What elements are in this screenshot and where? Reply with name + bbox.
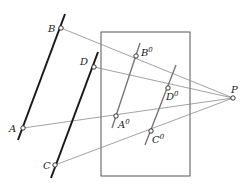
label-d0: D0 bbox=[165, 90, 179, 102]
projection-ray-d bbox=[94, 67, 233, 98]
label-a0: A0 bbox=[117, 118, 130, 130]
label-c: C bbox=[43, 160, 51, 171]
line-CD bbox=[51, 52, 98, 178]
label-b0: B0 bbox=[140, 46, 153, 58]
image-point-b0 bbox=[134, 54, 138, 58]
line-AB bbox=[18, 14, 65, 140]
label-d: D bbox=[79, 56, 88, 67]
label-c0: C0 bbox=[152, 133, 165, 145]
label-p: P bbox=[230, 84, 238, 95]
projection-ray-c bbox=[55, 98, 233, 165]
point-b bbox=[59, 26, 63, 30]
perspective-diagram: ABCDA0B0C0D0P bbox=[0, 0, 250, 192]
image-point-c0 bbox=[149, 129, 153, 133]
point-a bbox=[21, 126, 25, 130]
point-c bbox=[53, 163, 57, 167]
center-point-p bbox=[231, 96, 235, 100]
point-d bbox=[92, 65, 96, 69]
label-a: A bbox=[8, 123, 16, 134]
image-point-d0 bbox=[166, 86, 170, 90]
label-b: B bbox=[47, 23, 55, 34]
image-point-a0 bbox=[114, 114, 118, 118]
